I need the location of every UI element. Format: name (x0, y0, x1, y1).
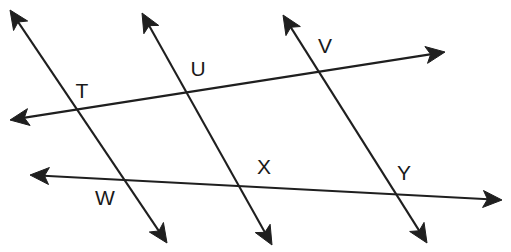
transversal-right-arrow-end-icon (410, 222, 427, 243)
transversal-right-arrow-start-icon (283, 15, 300, 36)
transversal-left-arrow-end-icon (149, 222, 167, 243)
transversal-middle-arrow-end-icon (255, 224, 272, 245)
transversal-left (10, 10, 167, 243)
transversal-left-arrow-start-icon (10, 10, 28, 31)
point-label-u: U (190, 57, 205, 80)
geometry-canvas: TUVWXY (0, 0, 511, 252)
transversal-middle (142, 13, 272, 245)
point-label-v: V (318, 34, 332, 57)
point-label-x: X (257, 155, 271, 178)
point-label-w: W (95, 186, 115, 209)
point-label-y: Y (397, 161, 411, 184)
point-label-t: T (76, 79, 89, 102)
transversal-right (283, 15, 427, 243)
transversal-right-shaft (290, 26, 420, 231)
transversal-middle-shaft (149, 25, 266, 233)
transversal-middle-arrow-start-icon (142, 13, 159, 34)
transversal-left-shaft (18, 21, 160, 232)
geometry-diagram: TUVWXY (0, 0, 511, 252)
